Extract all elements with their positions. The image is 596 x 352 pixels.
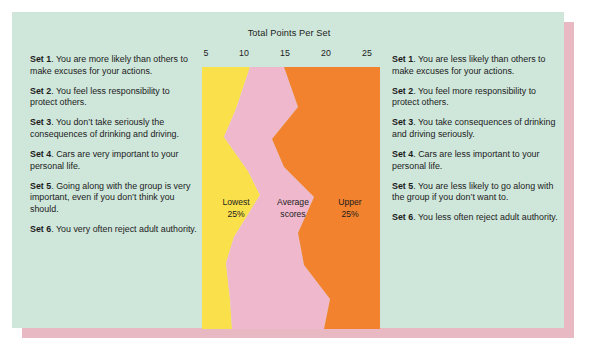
- axis-tick-label: 15: [280, 48, 290, 58]
- list-item: Set 2. You feel less responsibility to p…: [30, 86, 198, 109]
- set-description: . You feel less responsibility to protec…: [30, 86, 170, 108]
- left-descriptions-column: Set 1. You are more likely than others t…: [30, 54, 198, 244]
- list-item: Set 3. You take consequences of drinking…: [392, 117, 560, 140]
- band-label-average: Average scores: [277, 196, 309, 221]
- band-label-line1: Lowest: [222, 197, 249, 207]
- axis-tick-label: 20: [321, 48, 331, 58]
- set-label: Set 2: [392, 86, 413, 96]
- figure-root: Set 1. You are more likely than others t…: [0, 0, 596, 352]
- list-item: Set 4. Cars are very important to your p…: [30, 149, 198, 172]
- chart-title: Total Points Per Set: [198, 28, 380, 38]
- set-label: Set 3: [392, 117, 413, 127]
- axis-tick-label: 5: [204, 48, 209, 58]
- set-description: . Cars are less important to your person…: [392, 149, 540, 171]
- x-axis-ticks: 5 10 15 20 25: [198, 48, 380, 62]
- axis-tick-label: 10: [239, 48, 249, 58]
- set-label: Set 1: [30, 54, 51, 64]
- list-item: Set 3. You don’t take seriously the cons…: [30, 117, 198, 140]
- list-item: Set 4. Cars are less important to your p…: [392, 149, 560, 172]
- band-label-line1: Average: [277, 197, 309, 207]
- set-label: Set 5: [392, 181, 413, 191]
- band-label-line2: scores: [280, 209, 305, 219]
- set-label: Set 4: [392, 149, 413, 159]
- band-label-line1: Upper: [338, 197, 361, 207]
- set-description: . You are less likely than others to mak…: [392, 54, 545, 76]
- set-label: Set 3: [30, 117, 51, 127]
- band-label-lowest: Lowest 25%: [222, 196, 249, 221]
- set-label: Set 6: [392, 212, 413, 222]
- set-description: . You are more likely than others to mak…: [30, 54, 188, 76]
- list-item: Set 1. You are less likely than others t…: [392, 54, 560, 77]
- band-label-line2: 25%: [341, 209, 358, 219]
- band-label-line2: 25%: [227, 209, 244, 219]
- list-item: Set 6. You less often reject adult autho…: [392, 212, 560, 224]
- set-description: . You are less likely to go along with t…: [392, 181, 553, 203]
- set-description: . You less often reject adult authority.: [413, 212, 557, 222]
- chart-plot-area: Lowest 25% Average scores Upper 25%: [202, 67, 380, 329]
- list-item: Set 2. You feel more responsibility to p…: [392, 86, 560, 109]
- set-description: . Going along with the group is very imp…: [30, 181, 190, 214]
- list-item: Set 6. You very often reject adult autho…: [30, 224, 198, 236]
- set-label: Set 5: [30, 181, 51, 191]
- band-label-upper: Upper 25%: [338, 196, 361, 221]
- set-description: . You very often reject adult authority.: [51, 224, 196, 234]
- set-label: Set 1: [392, 54, 413, 64]
- list-item: Set 1. You are more likely than others t…: [30, 54, 198, 77]
- set-label: Set 2: [30, 86, 51, 96]
- set-description: . You don’t take seriously the consequen…: [30, 117, 179, 139]
- figure-panel: Set 1. You are more likely than others t…: [12, 12, 564, 328]
- list-item: Set 5. Going along with the group is ver…: [30, 181, 198, 216]
- right-descriptions-column: Set 1. You are less likely than others t…: [392, 54, 560, 233]
- set-label: Set 4: [30, 149, 51, 159]
- set-label: Set 6: [30, 224, 51, 234]
- list-item: Set 5. You are less likely to go along w…: [392, 181, 560, 204]
- set-description: . Cars are very important to your person…: [30, 149, 178, 171]
- set-description: . You feel more responsibility to protec…: [392, 86, 536, 108]
- set-description: . You take consequences of drinking and …: [392, 117, 555, 139]
- axis-tick-label: 25: [362, 48, 372, 58]
- chart: Total Points Per Set 5 10 15 20 25: [198, 28, 380, 330]
